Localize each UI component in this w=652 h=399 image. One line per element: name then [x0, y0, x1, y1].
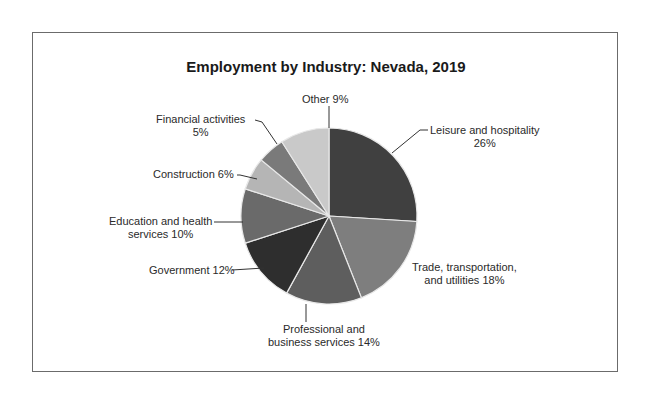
pie-slice — [329, 128, 417, 222]
label-education: Education and health services 10% — [109, 215, 212, 241]
label-financial: Financial activities 5% — [156, 113, 245, 139]
pie-slices — [241, 128, 417, 304]
label-other: Other 9% — [302, 93, 348, 106]
label-professional: Professional and business services 14% — [268, 323, 380, 349]
label-government: Government 12% — [149, 264, 235, 277]
label-leisure: Leisure and hospitality 26% — [430, 124, 539, 150]
label-trade: Trade, transportation, and utilities 18% — [412, 261, 517, 287]
label-construction: Construction 6% — [153, 168, 234, 181]
